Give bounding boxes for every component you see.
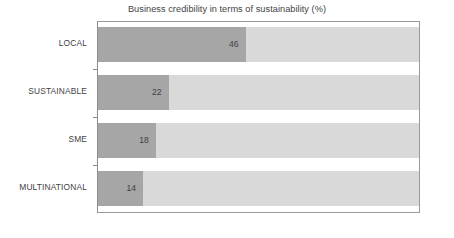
bar-chart: Business credibility in terms of sustain… <box>0 0 454 238</box>
y-axis-label-multinational: MULTINATIONAL <box>0 182 87 192</box>
y-axis-label-local: LOCAL <box>0 38 87 48</box>
chart-title: Business credibility in terms of sustain… <box>0 4 454 14</box>
y-axis-label-sustainable: SUSTAINABLE <box>0 86 87 96</box>
y-axis-label-sme: SME <box>0 134 87 144</box>
y-axis-labels: LOCAL SUSTAINABLE SME MULTINATIONAL <box>0 21 454 213</box>
